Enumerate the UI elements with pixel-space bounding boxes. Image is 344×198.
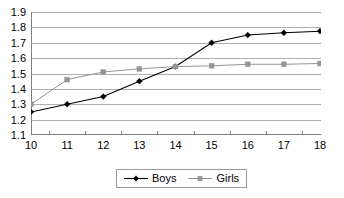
data-point-marker (209, 40, 215, 46)
x-axis-tick-label: 10 (25, 139, 37, 152)
data-point-marker (64, 101, 70, 107)
x-axis-tick-label: 16 (242, 139, 254, 152)
x-axis-tick-label: 15 (206, 139, 218, 152)
legend-entry-girls[interactable]: Girls (188, 173, 239, 184)
series-girls (31, 61, 321, 107)
data-point-marker (136, 78, 142, 84)
x-axis-tick-label: 18 (314, 139, 326, 152)
y-axis-tick-label: 1.7 (11, 37, 26, 48)
data-point-marker (318, 61, 321, 66)
legend-swatch-square-icon (188, 174, 212, 183)
legend-label: Girls (216, 173, 239, 184)
gridlines (31, 13, 321, 136)
data-point-marker (31, 109, 34, 115)
data-point-marker (209, 63, 214, 68)
y-axis-tick-label: 1.5 (11, 68, 26, 79)
data-point-marker (65, 77, 70, 82)
line-chart: 1.11.21.31.41.51.61.71.81.9 101112131415… (0, 0, 344, 198)
y-axis-tick-label: 1.6 (11, 53, 26, 64)
y-axis-tick-label: 1.8 (11, 22, 26, 33)
legend-label: Boys (152, 173, 176, 184)
series-boys (31, 28, 321, 115)
x-axis-tick-label: 14 (169, 139, 181, 152)
x-axis-tick-label: 11 (61, 139, 72, 152)
x-axis-tick-labels: 101112131415161718 (31, 139, 321, 155)
data-point-marker (245, 32, 251, 38)
plot-area (31, 12, 321, 135)
y-axis-tick-label: 1.4 (11, 83, 26, 94)
y-axis-tick-label: 1.1 (11, 130, 26, 141)
x-axis-tick-label: 17 (278, 139, 290, 152)
axis-lines (31, 12, 321, 135)
legend-swatch-diamond-icon (124, 174, 148, 183)
y-axis-tick-label: 1.2 (11, 114, 26, 125)
data-point-marker (101, 70, 106, 75)
x-axis-ticks (31, 13, 303, 136)
x-axis-tick-label: 12 (97, 139, 109, 152)
legend-entry-boys[interactable]: Boys (124, 173, 176, 184)
y-axis-tick-label: 1.9 (11, 7, 26, 18)
data-point-marker (245, 62, 250, 67)
data-point-marker (281, 62, 286, 67)
chart-legend: BoysGirls (116, 169, 247, 188)
data-point-marker (173, 64, 178, 69)
data-point-marker (317, 28, 321, 34)
data-point-marker (281, 30, 287, 36)
y-axis-tick-labels: 1.11.21.31.41.51.61.71.81.9 (0, 12, 29, 135)
data-point-marker (100, 94, 106, 100)
x-axis-tick-label: 13 (133, 139, 145, 152)
plot-svg (31, 12, 321, 135)
data-point-marker (137, 66, 142, 71)
y-axis-tick-label: 1.3 (11, 99, 26, 110)
data-series-layer (31, 28, 321, 115)
data-point-marker (31, 102, 33, 107)
